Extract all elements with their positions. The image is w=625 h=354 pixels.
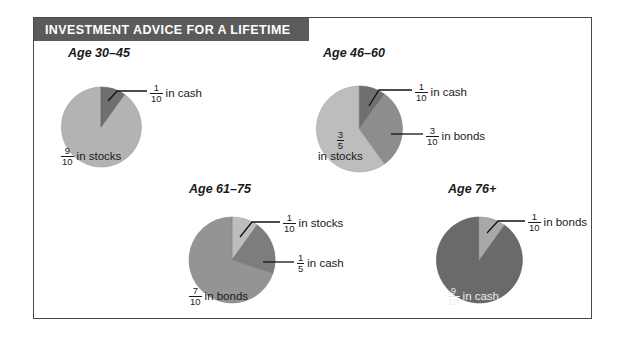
fraction-one-tenth: 1 10 [283,213,296,234]
inner-label-text-stocks: in stocks [77,151,122,163]
callout-cash-age-46-60: 1 10 in cash [415,82,467,103]
callout-label-stocks: in stocks [299,218,344,230]
inner-label-text-stocks: in stocks [318,151,363,163]
callout-label-cash: in cash [166,88,202,100]
callout-stocks-age-61-75: 1 10 in stocks [283,213,343,234]
fraction-seven-tenths: 7 10 [189,286,202,307]
pie-title-age-46-60: Age 46–60 [323,46,385,60]
pie-panel-age-30-45: Age 30–45 1 10 in cash 9 10 in stocks [34,46,304,186]
callout-label-bonds: in bonds [544,217,587,229]
fraction-three-tenths: 3 10 [426,126,439,147]
pie-panel-age-61-75: Age 61–75 1 10 in stocks 1 5 i [144,182,424,320]
pie-panel-age-76-plus: Age 76+ 1 10 in bonds 9 10 in cash [394,182,593,320]
pie-panel-age-46-60: Age 46–60 1 10 in cash 3 10 in [299,46,593,196]
fraction-nine-tenths: 9 10 [447,286,460,307]
callout-cash-age-30-45: 1 10 in cash [150,83,202,104]
callout-label-bonds: in bonds [442,131,485,143]
inner-label-bonds-age-61-75: 7 10 in bonds [189,286,248,307]
inner-label-text-cash: in cash [463,291,499,303]
inner-label-stocks-age-46-60: 3 5 in stocks [318,130,363,162]
figure-title-banner: INVESTMENT ADVICE FOR A LIFETIME [34,18,309,41]
fraction-nine-tenths: 9 10 [61,146,74,167]
callout-bonds-age-76-plus: 1 10 in bonds [528,212,587,233]
pie-title-age-61-75: Age 61–75 [189,182,251,196]
callout-cash-age-61-75: 1 5 in cash [297,253,344,274]
fraction-three-fifths: 3 5 [337,130,344,151]
inner-label-stocks-age-30-45: 9 10 in stocks [61,146,121,167]
callout-label-cash: in cash [307,258,343,270]
pie-title-age-76-plus: Age 76+ [448,182,496,196]
figure-title: INVESTMENT ADVICE FOR A LIFETIME [34,23,290,37]
fraction-one-tenth: 1 10 [415,82,428,103]
callout-label-cash: in cash [431,87,467,99]
fraction-one-fifth: 1 5 [297,253,304,274]
inner-label-cash-age-76-plus: 9 10 in cash [447,286,499,307]
figure-frame: INVESTMENT ADVICE FOR A LIFETIME Age 30–… [33,17,592,319]
fraction-one-tenth: 1 10 [150,83,163,104]
callout-bonds-age-46-60: 3 10 in bonds [426,126,485,147]
fraction-one-tenth: 1 10 [528,212,541,233]
pie-title-age-30-45: Age 30–45 [68,46,130,60]
inner-label-text-bonds: in bonds [205,291,248,303]
